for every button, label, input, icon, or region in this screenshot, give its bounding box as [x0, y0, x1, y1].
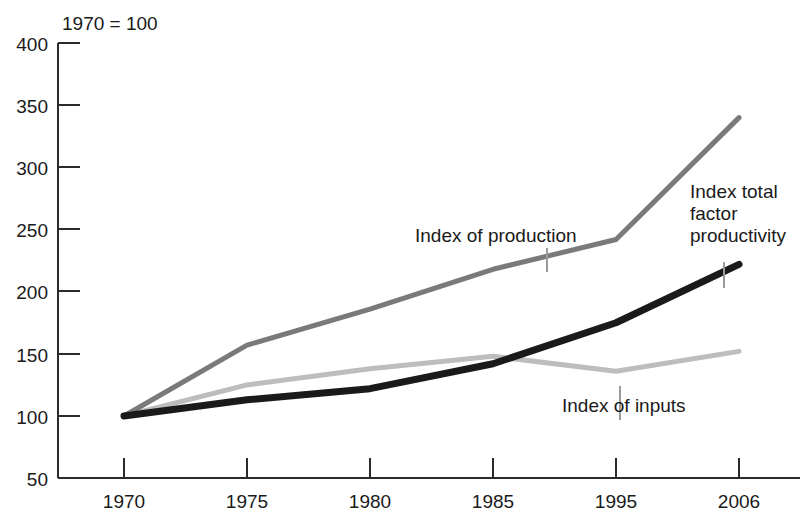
series-line-index-of-production [124, 118, 739, 416]
y-label-300: 300 [16, 158, 48, 179]
y-label-200: 200 [16, 282, 48, 303]
y-axis-labels: 400 350 300 250 200 150 100 50 [16, 34, 48, 490]
x-label-1975: 1975 [226, 491, 268, 512]
x-label-1995: 1995 [595, 491, 637, 512]
annotation-index-of-inputs: Index of inputs [562, 395, 686, 416]
y-label-150: 150 [16, 345, 48, 366]
y-label-50: 50 [27, 469, 48, 490]
y-label-100: 100 [16, 407, 48, 428]
y-label-350: 350 [16, 96, 48, 117]
y-label-400: 400 [16, 34, 48, 55]
annotation-tfp-line-3: productivity [690, 225, 787, 246]
x-label-1970: 1970 [103, 491, 145, 512]
annotation-tfp-line-1: Index total [690, 181, 778, 202]
x-label-1980: 1980 [349, 491, 391, 512]
line-chart: 400 350 300 250 200 150 100 50 1970 1975… [0, 0, 802, 531]
x-label-1985: 1985 [472, 491, 514, 512]
chart-container: 400 350 300 250 200 150 100 50 1970 1975… [0, 0, 802, 531]
x-axis-ticks [124, 458, 739, 478]
y-label-250: 250 [16, 220, 48, 241]
annotation-index-of-production: Index of production [415, 225, 577, 246]
index-base-note: 1970 = 100 [62, 13, 158, 34]
y-axis-ticks [58, 43, 80, 416]
annotation-tfp-line-2: factor [690, 203, 738, 224]
x-label-2006: 2006 [718, 491, 760, 512]
annotation-index-total-factor-productivity: Index total factor productivity [690, 181, 787, 246]
x-axis-labels: 1970 1975 1980 1985 1995 2006 [103, 491, 760, 512]
